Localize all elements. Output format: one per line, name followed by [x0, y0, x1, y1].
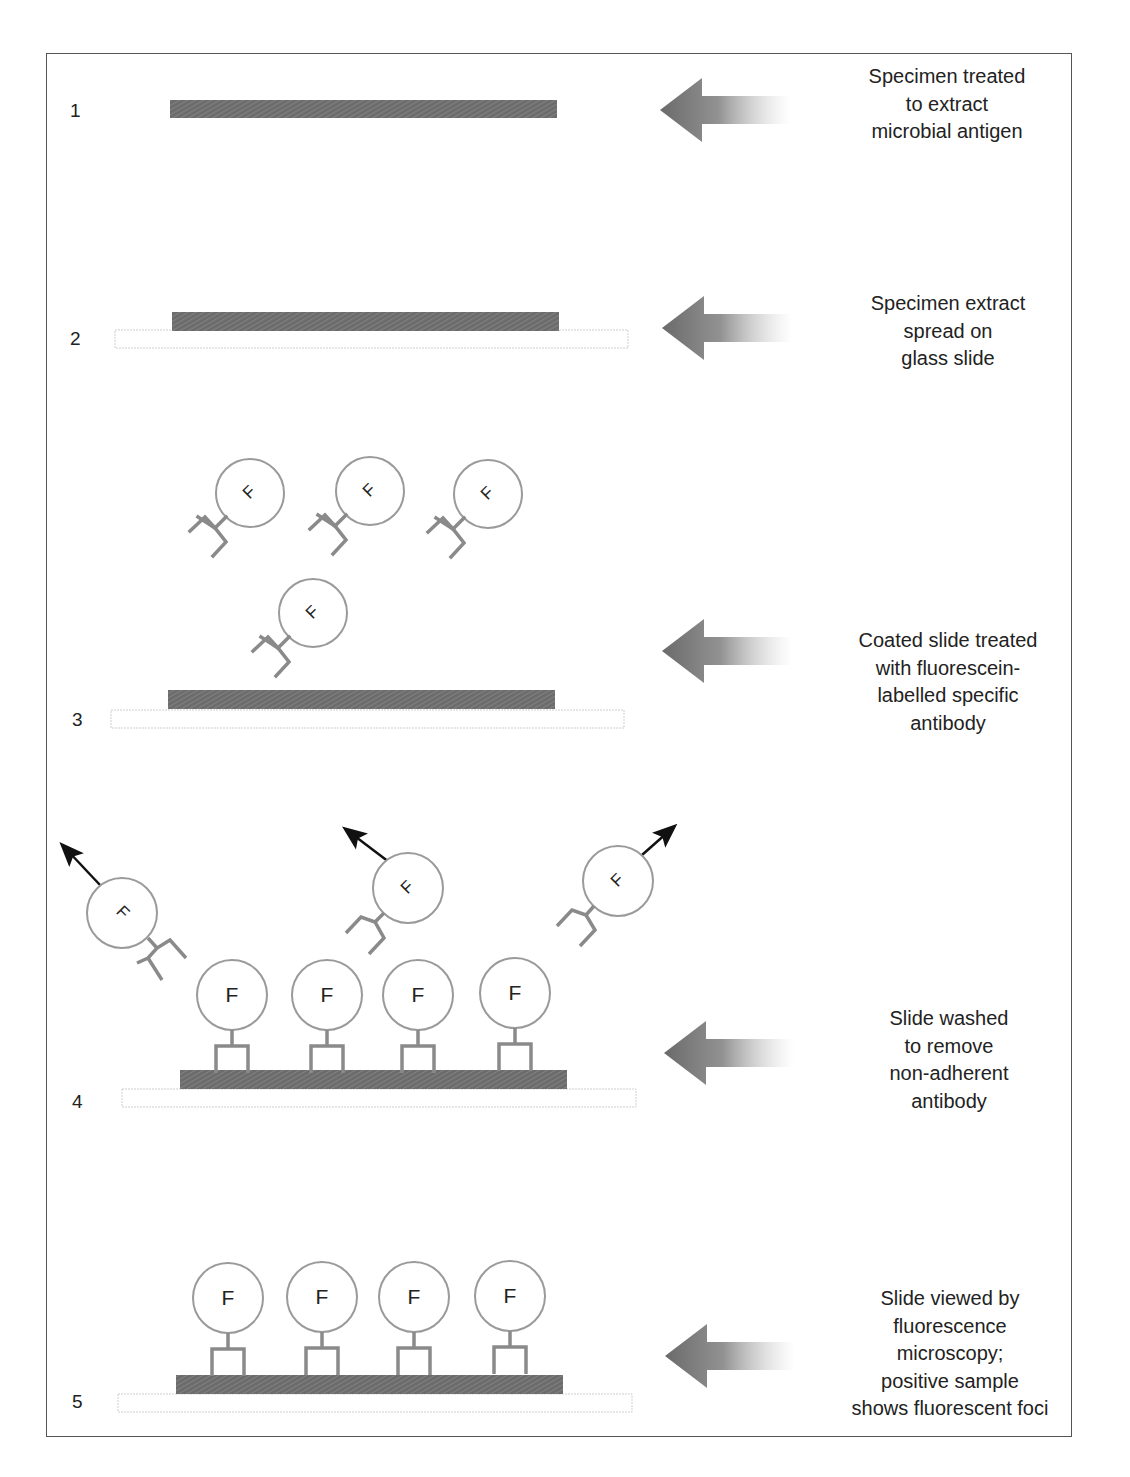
bound-labelled-antibody	[197, 960, 267, 1073]
antigen-bar	[168, 690, 555, 709]
antigen-bar	[180, 1070, 567, 1089]
step-caption-2: Specimen extract spread on glass slide	[818, 290, 1078, 373]
step-number-2: 2	[70, 328, 81, 350]
glass-slide	[118, 1394, 632, 1412]
bound-labelled-antibody	[475, 1261, 545, 1374]
step-caption-1: Specimen treated to extract microbial an…	[817, 63, 1077, 146]
step-caption-3: Coated slide treated with fluorescein- l…	[818, 627, 1078, 737]
step-4-graphic: F F F	[68, 832, 794, 1107]
washed-antibody: F	[557, 832, 668, 946]
bound-labelled-antibody	[292, 960, 362, 1073]
free-labelled-antibody	[428, 460, 522, 557]
step-2-graphic	[115, 296, 792, 360]
step-number-1: 1	[70, 100, 81, 122]
step-caption-5: Slide viewed by fluorescence microscopy;…	[820, 1285, 1080, 1423]
step-arrow-icon	[664, 1021, 794, 1085]
step-arrow-icon	[662, 296, 792, 360]
step-caption-4: Slide washed to remove non-adherent anti…	[819, 1005, 1079, 1115]
bound-labelled-antibody	[287, 1262, 357, 1375]
glass-slide	[111, 710, 624, 728]
bound-labelled-antibody	[379, 1262, 449, 1375]
antigen-bar	[176, 1375, 563, 1394]
free-labelled-antibody	[310, 457, 404, 554]
antigen-bar	[170, 100, 557, 118]
glass-slide	[115, 330, 628, 348]
step-arrow-icon	[665, 1324, 795, 1388]
step-number-4: 4	[72, 1091, 83, 1113]
diagram-canvas: F F F	[0, 0, 1130, 1477]
bound-labelled-antibody	[480, 958, 550, 1071]
step-3-graphic	[111, 457, 792, 728]
step-1-graphic	[170, 78, 790, 142]
step-arrow-icon	[662, 619, 792, 683]
bound-labelled-antibody	[383, 960, 453, 1073]
step-number-5: 5	[72, 1391, 83, 1413]
glass-slide	[122, 1089, 636, 1107]
antigen-bar	[172, 312, 559, 331]
step-5-graphic	[118, 1261, 795, 1412]
bound-labelled-antibody	[193, 1263, 263, 1376]
washed-antibody: F	[68, 851, 186, 980]
step-number-3: 3	[72, 709, 83, 731]
step-arrow-icon	[660, 78, 790, 142]
free-labelled-antibody	[253, 579, 347, 676]
washed-antibody: F	[346, 834, 443, 954]
free-labelled-antibody	[190, 459, 284, 556]
